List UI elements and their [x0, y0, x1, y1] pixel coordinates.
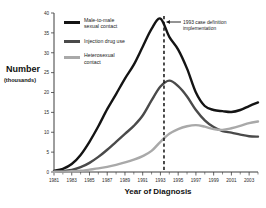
legend-label-male-to-male-line2: sexual contact: [84, 23, 118, 29]
legend-label-injection-drug-use: Injection drug use: [84, 38, 125, 44]
x-tick-label: 1997: [191, 178, 202, 183]
x-tick-label: 1991: [138, 178, 149, 183]
y-axis-title: Number: [6, 64, 41, 74]
chart-figure: 0510152025303540 19811983198519871989199…: [0, 0, 266, 208]
y-tick-label: 40: [44, 11, 50, 16]
y-tick-label: 15: [44, 110, 50, 115]
legend-label-male-to-male-line1: Male-to-male: [84, 17, 114, 23]
x-tick-label: 2003: [244, 178, 255, 183]
annotation-label-line2: implementation: [183, 26, 216, 31]
x-axis-title: Year of Diagnosis: [124, 187, 192, 196]
y-tick-label: 0: [46, 170, 49, 175]
x-tick-label: 1987: [102, 178, 113, 183]
y-tick-label: 25: [44, 70, 50, 75]
y-tick-label: 10: [44, 130, 50, 135]
x-tick-label: 1983: [67, 178, 78, 183]
x-tick-label: 1981: [49, 178, 60, 183]
y-axis-subtitle: (thousands): [4, 77, 36, 83]
x-tick-label: 1995: [173, 178, 184, 183]
y-tick-label: 20: [44, 90, 50, 95]
annotation-label-line1: 1993 case definition: [183, 20, 227, 25]
x-tick-label: 1989: [120, 178, 131, 183]
y-tick-label: 35: [44, 31, 50, 36]
x-tick-label: 1985: [84, 178, 95, 183]
x-tick-label: 1993: [155, 178, 166, 183]
y-tick-label: 30: [44, 51, 50, 56]
x-tick-label: 2001: [226, 178, 237, 183]
legend-label-heterosexual-line1: Heterosexual: [84, 52, 115, 58]
legend-label-heterosexual-line2: contact: [84, 59, 101, 65]
y-tick-label: 5: [46, 150, 49, 155]
x-tick-label: 1999: [209, 178, 220, 183]
